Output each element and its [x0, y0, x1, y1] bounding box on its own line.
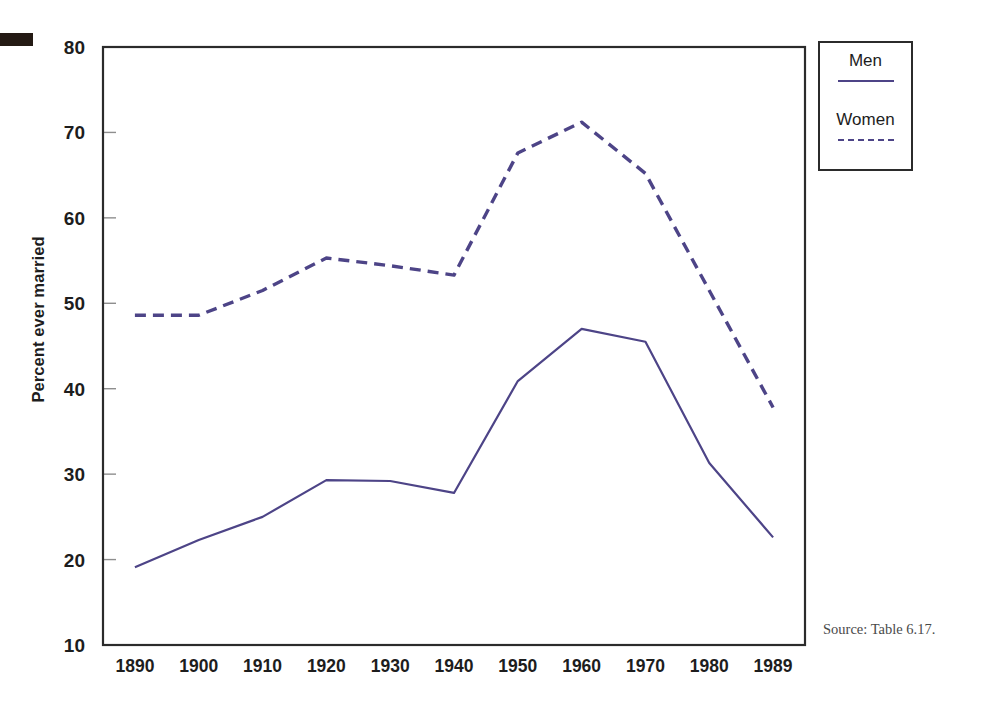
legend-swatch-women-dashed-line-icon	[838, 139, 894, 141]
svg-text:10: 10	[64, 635, 85, 656]
svg-text:50: 50	[64, 293, 85, 314]
svg-text:20: 20	[64, 550, 85, 571]
source-note: Source: Table 6.17.	[823, 621, 935, 638]
x-axis-labels: 1890190019101920193019401950196019701980…	[115, 656, 792, 676]
y-axis-labels: 1020304050607080	[64, 37, 85, 656]
y-axis-ticks	[103, 132, 116, 559]
series-line-women	[135, 122, 773, 407]
svg-text:1950: 1950	[498, 656, 537, 676]
legend-entry-women: Women	[820, 111, 911, 141]
svg-text:1910: 1910	[243, 656, 282, 676]
svg-text:1960: 1960	[562, 656, 601, 676]
svg-text:70: 70	[64, 122, 85, 143]
chart-figure: Percent ever married 1020304050607080 18…	[0, 0, 995, 705]
series-line-men	[135, 329, 773, 567]
legend: Men Women	[818, 41, 913, 171]
svg-text:1930: 1930	[371, 656, 410, 676]
svg-text:30: 30	[64, 464, 85, 485]
svg-text:80: 80	[64, 37, 85, 58]
svg-text:60: 60	[64, 208, 85, 229]
svg-text:1980: 1980	[690, 656, 729, 676]
svg-text:1900: 1900	[179, 656, 218, 676]
svg-text:40: 40	[64, 379, 85, 400]
legend-swatch-men-solid-line-icon	[838, 80, 894, 82]
svg-text:1920: 1920	[307, 656, 346, 676]
svg-text:1989: 1989	[754, 656, 793, 676]
legend-label-men: Men	[820, 52, 911, 71]
plot-frame	[103, 47, 805, 645]
svg-text:1890: 1890	[115, 656, 154, 676]
legend-label-women: Women	[820, 111, 911, 130]
legend-entry-men: Men	[820, 52, 911, 82]
svg-text:1940: 1940	[435, 656, 474, 676]
data-series	[135, 122, 773, 567]
svg-text:1970: 1970	[626, 656, 665, 676]
